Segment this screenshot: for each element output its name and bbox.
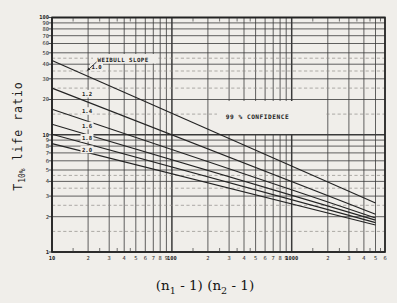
x-tick-label: 4 [123,255,126,261]
y-tick-label: 8 [46,143,49,149]
series-label-1.8: 1.8 [82,135,93,141]
x-tick-label: 3 [108,255,111,261]
x-tick-label: 7 [152,255,155,261]
y-tick-label: 80 [43,26,50,32]
x-axis-title-part: (n [156,277,170,293]
y-axis-title-subscript: 10% [18,168,27,182]
series-line-2.0 [52,144,376,225]
chart-canvas: 99 % CONFIDENCE1.01.21.41.61.82.0WEIBULL… [0,0,397,303]
y-tick-label: 20 [43,96,50,102]
x-tick-label: 2 [326,255,329,261]
x-tick-label: 4 [362,255,365,261]
x-tick-label: 5 [134,255,137,261]
x-axis-title-part: - 1) (n [176,277,221,293]
x-tick-label: 3 [347,255,350,261]
series-line-1.2 [52,88,376,214]
series-label-1.4: 1.4 [82,108,93,114]
series-label-2.0: 2.0 [82,147,93,153]
y-tick-label: 70 [43,33,50,39]
x-tick-label: 10 [49,255,56,261]
y-tick-label: 60 [43,40,50,46]
x-tick-label: 6 [144,255,147,261]
scanned-figure-page: 99 % CONFIDENCE1.01.21.41.61.82.0WEIBULL… [0,0,397,303]
series-line-1.8 [52,134,376,222]
series-line-1.4 [52,109,376,218]
y-tick-label: 7 [46,150,49,156]
x-tick-label: 3 [227,255,230,261]
series-label-1.6: 1.6 [82,123,93,129]
weibull-slope-annotation: WEIBULL SLOPE [98,57,149,63]
x-tick-label: 6 [383,255,386,261]
x-tick-label: 8 [159,255,162,261]
y-tick-label: 3 [46,193,49,199]
y-tick-label: 50 [43,50,50,56]
y-tick-label: 4 [46,178,49,184]
x-tick-label: 100 [167,255,177,261]
y-axis-title-rest: life ratio [11,81,25,168]
x-axis-title: (n1 - 1) (n2 - 1) [125,277,285,296]
x-tick-label: 2 [86,255,89,261]
x-tick-label: 5 [254,255,257,261]
y-tick-label: 6 [46,158,49,164]
weibull-confidence-chart: 99 % CONFIDENCE1.01.21.41.61.82.0WEIBULL… [0,0,397,303]
y-tick-label: 40 [43,61,50,67]
confidence-annotation: 99 % CONFIDENCE [226,113,289,120]
y-tick-label: 10 [43,132,50,138]
y-tick-label: 1 [46,249,49,255]
y-axis-title-main: T [11,183,25,191]
y-axis-title: T10% life ratio [11,56,29,216]
y-tick-label: 9 [46,137,49,143]
y-tick-label: 5 [46,167,49,173]
x-tick-label: 6 [263,255,266,261]
series-line-1.6 [52,124,376,220]
y-tick-label: 2 [46,214,49,220]
x-axis-title-part: - 1) [227,277,254,293]
x-tick-label: 8 [278,255,281,261]
x-tick-label: 7 [272,255,275,261]
y-tick-label: 90 [43,20,50,26]
x-tick-label: 2 [206,255,209,261]
x-tick-label: 1000 [285,255,298,261]
y-tick-label: 100 [39,14,49,20]
series-label-1.2: 1.2 [82,91,92,97]
x-tick-label: 5 [374,255,377,261]
y-tick-label: 30 [43,76,50,82]
x-tick-label: 4 [242,255,245,261]
